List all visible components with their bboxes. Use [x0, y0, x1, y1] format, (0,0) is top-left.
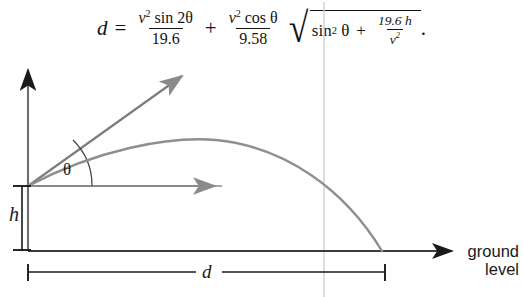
- ground-level-label-line2: level: [461, 261, 519, 279]
- angle-label: θ: [63, 160, 71, 180]
- height-label: h: [9, 203, 19, 226]
- velocity-vector-arrow: [28, 76, 182, 186]
- diagram-canvas: [0, 0, 523, 297]
- figure-projectile-motion: d = v2 sin 2θ 19.6 + v2 cos θ 9.58 √ sin…: [0, 0, 523, 297]
- distance-label: d: [202, 261, 212, 283]
- ground-level-label-line1: ground: [461, 243, 519, 261]
- trajectory-curve: [28, 139, 382, 251]
- ground-level-label: ground level: [461, 243, 519, 279]
